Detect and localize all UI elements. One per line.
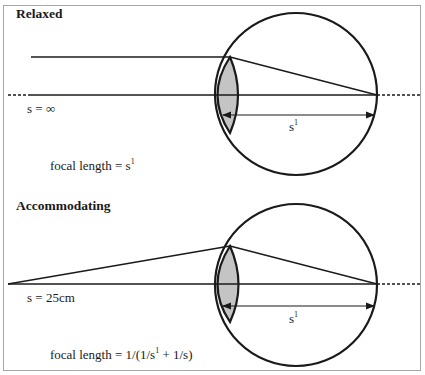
image-distance-label: s1 [289, 311, 298, 327]
formula-text: focal length = 1/(1/s [50, 347, 155, 362]
panel-title-relaxed: Relaxed [16, 6, 63, 22]
focal-length-formula: focal length = 1/(1/s1 + 1/s) [50, 347, 193, 363]
panel-title-accommodating: Accommodating [16, 198, 111, 214]
object-distance-label: s = 25cm [27, 290, 75, 306]
eye-diagram [0, 0, 425, 375]
relaxed-eye [8, 13, 420, 175]
focal-length-formula: focal length = s1 [50, 158, 135, 174]
image-distance-sup: 1 [294, 118, 298, 127]
eyeball-outline [215, 13, 377, 175]
accommodating-eye [8, 204, 420, 366]
formula-suffix: + 1/s) [159, 347, 192, 362]
image-distance-label: s1 [289, 119, 298, 135]
image-distance-sup: 1 [294, 310, 298, 319]
formula-sup: 1 [131, 157, 135, 166]
formula-text: focal length = s [50, 158, 131, 173]
incoming-diverging-ray [8, 246, 230, 284]
refracted-ray [230, 246, 377, 284]
object-distance-label: s = ∞ [27, 101, 55, 117]
refracted-ray [230, 57, 377, 95]
